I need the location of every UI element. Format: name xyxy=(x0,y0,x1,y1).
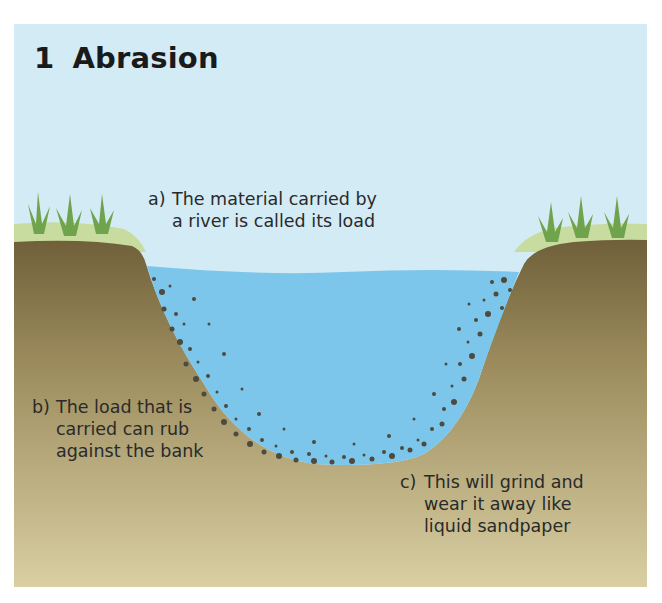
label-b: b) The load that is carried can rub agai… xyxy=(32,396,203,462)
label-c-marker: c) xyxy=(400,471,416,493)
label-a-line-2: a river is called its load xyxy=(148,210,377,232)
diagram-title: 1Abrasion xyxy=(34,41,219,75)
label-a: a) The material carried by a river is ca… xyxy=(148,188,377,232)
label-c-line-1: This will grind and xyxy=(400,471,584,493)
label-a-marker: a) xyxy=(148,188,166,210)
label-c-line-3: liquid sandpaper xyxy=(400,515,584,537)
abrasion-diagram: 1Abrasion a) The material carried by a r… xyxy=(14,24,647,587)
label-b-line-2: carried can rub xyxy=(32,418,203,440)
label-b-line-1: The load that is xyxy=(32,396,203,418)
label-c: c) This will grind and wear it away like… xyxy=(400,471,584,537)
title-text: Abrasion xyxy=(72,41,218,75)
label-b-marker: b) xyxy=(32,396,50,418)
label-a-line-1: The material carried by xyxy=(148,188,377,210)
label-c-line-2: wear it away like xyxy=(400,493,584,515)
label-b-line-3: against the bank xyxy=(32,440,203,462)
title-number: 1 xyxy=(34,41,54,75)
